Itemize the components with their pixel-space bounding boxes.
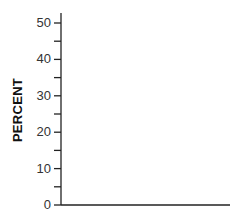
chart-svg bbox=[0, 0, 246, 217]
chart-area: PERCENT 01020304050 bbox=[0, 0, 246, 217]
axes bbox=[54, 13, 230, 205]
y-tick-label: 50 bbox=[27, 16, 51, 29]
y-tick-label: 40 bbox=[27, 52, 51, 65]
y-tick-label: 10 bbox=[27, 162, 51, 175]
y-tick-label: 30 bbox=[27, 89, 51, 102]
y-tick-label: 0 bbox=[27, 198, 51, 211]
y-tick-label: 20 bbox=[27, 125, 51, 138]
y-axis-label: PERCENT bbox=[10, 78, 25, 142]
